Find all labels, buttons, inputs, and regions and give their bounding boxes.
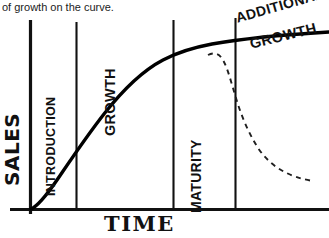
product-life-cycle-figure: of growth on the curve. SALES INTRODUCTI… — [0, 0, 329, 238]
sales-curve-dashed-decline — [208, 53, 313, 181]
stage-label-maturity: MATURITY — [188, 139, 204, 213]
y-axis-label: SALES — [0, 113, 24, 186]
stage-label-growth: GROWTH — [102, 68, 118, 136]
stage-label-introduction: INTRODUCTION — [44, 97, 58, 196]
x-axis-label: TIME — [104, 211, 175, 236]
